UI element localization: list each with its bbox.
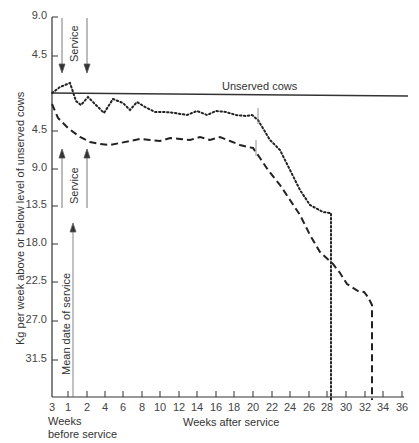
mean-date-of-service-label: Mean date of service [60, 273, 72, 375]
x-ticks [68, 391, 402, 397]
x-axis-title-after-service: Weeks after service [183, 416, 279, 428]
x-tick-label: 32 [359, 401, 371, 413]
x-tick-label: 24 [284, 401, 296, 413]
x-tick-label: 14 [191, 401, 203, 413]
y-tick-label: 31.5 [11, 352, 47, 364]
x-tick-label: 2 [84, 401, 90, 413]
x-axis-title-weeks: Weeks [48, 415, 81, 427]
x-tick-label: 10 [154, 401, 166, 413]
unserved-cows-label: Unserved cows [222, 80, 297, 92]
x-tick-label: 18 [228, 401, 240, 413]
x-tick-label: 36 [396, 401, 408, 413]
service-label-top: Service [68, 25, 80, 62]
x-tick-label: 16 [210, 401, 222, 413]
x-tick-label: 1 [65, 401, 71, 413]
x-axis-title-before-service: before service [48, 428, 117, 440]
x-tick-label: 28 [321, 401, 333, 413]
y-tick-label: 9.0 [11, 9, 47, 21]
x-tick-label: 6 [120, 401, 126, 413]
y-axis-title: Kg per week above or below level of unse… [14, 92, 26, 345]
chart-canvas [0, 0, 419, 443]
y-tick-label: 4.5 [11, 48, 47, 60]
x-tick-label: 34 [377, 401, 389, 413]
x-tick-label: 12 [173, 401, 185, 413]
dotted-series-line [52, 83, 331, 400]
x-tick-label: 8 [139, 401, 145, 413]
dashed-series-line [52, 104, 372, 400]
x-tick-label: 30 [340, 401, 352, 413]
x-tick-label: 3 [49, 401, 55, 413]
x-tick-label: 22 [266, 401, 278, 413]
y-ticks [52, 17, 58, 360]
x-tick-label: 26 [303, 401, 315, 413]
x-tick-label: 4 [102, 401, 108, 413]
x-tick-label: 20 [247, 401, 259, 413]
service-label-bottom: Service [68, 167, 80, 204]
unserved-reference-line [52, 93, 408, 96]
